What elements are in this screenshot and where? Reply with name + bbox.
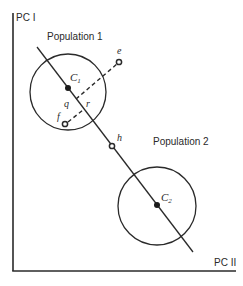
point-h	[109, 143, 114, 148]
discriminant-line	[37, 47, 193, 252]
population-2-label: Population 2	[153, 136, 209, 147]
centroid-1-label: C1	[70, 71, 81, 85]
population-1-circle	[30, 54, 106, 130]
y-axis-label: PC I	[16, 12, 35, 23]
point-e-label: e	[117, 45, 122, 56]
centroid-1-dot	[65, 85, 71, 91]
point-f	[62, 121, 67, 126]
centroid-2-label: C2	[161, 191, 172, 205]
projection-label-r: r	[86, 98, 90, 109]
x-axis-label: PC II	[214, 257, 236, 268]
projection-line-e	[76, 64, 117, 99]
projection-label-q: q	[64, 98, 69, 109]
population-1-label: Population 1	[47, 31, 103, 42]
pca-diagram: PC I PC II Population 1 Population 2 C1 …	[0, 0, 243, 286]
projection-line-f	[68, 110, 83, 122]
centroid-2-dot	[154, 202, 160, 208]
point-f-label: f	[57, 111, 61, 122]
point-e	[116, 59, 121, 64]
point-h-label: h	[117, 132, 122, 143]
